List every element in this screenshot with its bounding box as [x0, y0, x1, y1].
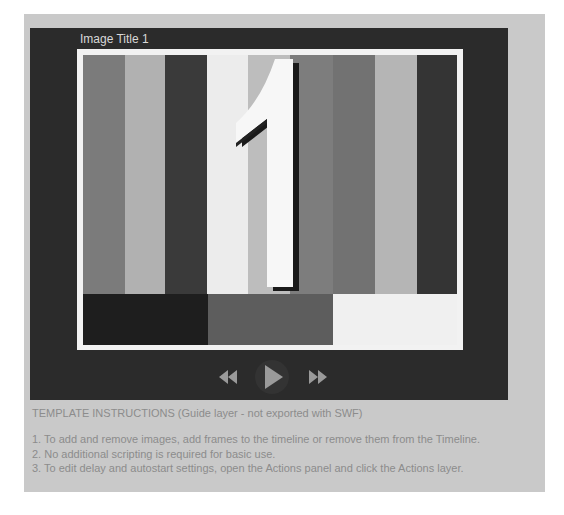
instruction-item: 3. To edit delay and autostart settings,… [32, 461, 480, 476]
image-title: Image Title 1 [80, 32, 149, 46]
color-bar [333, 55, 375, 294]
rewind-button[interactable] [218, 370, 238, 384]
playback-controls [200, 360, 340, 394]
color-bar [375, 55, 417, 294]
color-bar [83, 55, 125, 294]
instructions-heading: TEMPLATE INSTRUCTIONS (Guide layer - not… [32, 407, 362, 420]
instructions-list: 1. To add and remove images, add frames … [32, 432, 480, 476]
color-block [208, 294, 333, 345]
color-block [83, 294, 208, 345]
color-block [333, 294, 457, 345]
fast-forward-icon [308, 370, 328, 384]
slide-image [83, 55, 457, 345]
fast-forward-button[interactable] [308, 370, 328, 384]
color-bar [125, 55, 165, 294]
play-icon [255, 360, 289, 394]
bottom-blocks [83, 294, 457, 345]
play-button[interactable] [255, 360, 289, 394]
color-bar [417, 55, 457, 294]
instruction-item: 2. No additional scripting is required f… [32, 447, 480, 462]
rewind-icon [218, 370, 238, 384]
numeral-one-graphic [233, 59, 323, 291]
color-bar [165, 55, 207, 294]
instruction-item: 1. To add and remove images, add frames … [32, 432, 480, 447]
